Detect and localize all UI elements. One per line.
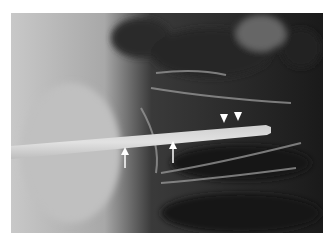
xray-image bbox=[11, 13, 323, 233]
